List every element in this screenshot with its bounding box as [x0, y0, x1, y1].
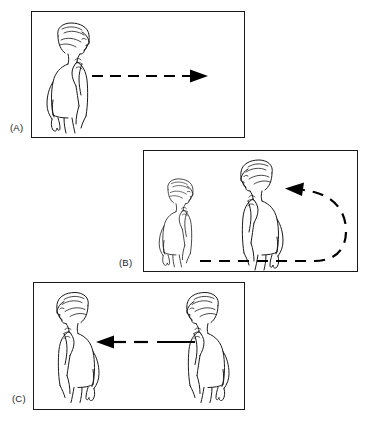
panel-label-a: (A)	[10, 122, 23, 133]
panel-c	[33, 282, 245, 410]
dashed-arrow-right	[90, 65, 212, 87]
dashed-u-turn-arrow	[196, 175, 356, 267]
panel-label-c: (C)	[12, 393, 26, 404]
dashed-arrow-left	[92, 331, 197, 353]
panel-b	[143, 150, 358, 272]
panel-label-b: (B)	[119, 257, 132, 268]
panel-a	[31, 11, 245, 138]
figure-root: (A)	[0, 0, 373, 424]
